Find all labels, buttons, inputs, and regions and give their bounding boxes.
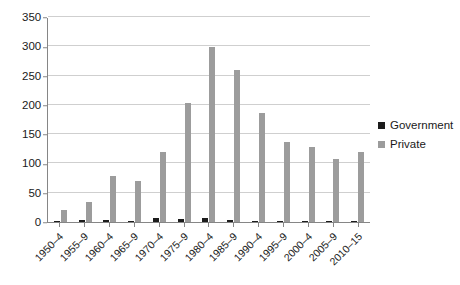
x-axis-labels: 1950–41955–91960–41965–91970–41975–91980… [47, 228, 370, 285]
bar-group [221, 18, 246, 222]
x-axis-tick-mark [358, 223, 359, 227]
bar-chart: 050100150200250300350 1950–41955–91960–4… [0, 0, 460, 285]
y-axis-tick-label: 150 [22, 129, 41, 141]
bar-government-1985-9 [227, 220, 233, 222]
x-axis-tick-mark [333, 223, 334, 227]
x-axis-tick-mark [84, 223, 85, 227]
bar-group [122, 18, 147, 222]
bar-group [296, 18, 321, 222]
bar-government-1955-9 [79, 220, 85, 222]
bar-private-1995-9 [284, 142, 290, 222]
bar-private-1960-4 [110, 176, 116, 222]
bar-group [147, 18, 172, 222]
bar-private-2010-15 [358, 152, 364, 222]
bar-private-1965-9 [135, 181, 141, 222]
bar-private-1985-9 [234, 70, 240, 222]
plot-area [47, 18, 370, 223]
y-axis-tick-label: 200 [22, 100, 41, 112]
bar-series-container [48, 18, 370, 222]
y-axis-tick-label: 300 [22, 42, 41, 54]
bar-group [48, 18, 73, 222]
y-axis-tick-label: 50 [28, 188, 41, 200]
bar-government-2010-15 [351, 221, 357, 222]
legend-item-private[interactable]: Private [378, 139, 453, 151]
legend-item-government[interactable]: Government [378, 120, 453, 132]
x-axis-tick-mark [109, 223, 110, 227]
x-axis-tick-mark [59, 223, 60, 227]
bar-government-1965-9 [128, 221, 134, 222]
bar-government-1960-4 [103, 220, 109, 222]
y-axis-tick: 150 [22, 129, 47, 141]
x-axis-tick-mark [233, 223, 234, 227]
y-axis-tick: 300 [22, 42, 47, 54]
government-swatch [378, 122, 385, 129]
bar-government-1970-4 [153, 218, 159, 222]
bar-group [197, 18, 222, 222]
x-axis-tick-mark [258, 223, 259, 227]
x-axis-tick-mark [208, 223, 209, 227]
bar-government-1990-4 [252, 221, 258, 222]
legend-item-label: Private [390, 139, 426, 151]
bar-private-1980-4 [209, 47, 215, 222]
bar-private-1950-4 [61, 210, 67, 222]
y-axis-tick: 200 [22, 100, 47, 112]
bar-government-1950-4 [54, 221, 60, 222]
bar-group [345, 18, 370, 222]
y-axis-tick-label: 0 [35, 217, 41, 229]
bar-government-2000-4 [302, 221, 308, 222]
bar-government-1975-9 [178, 219, 184, 222]
bar-private-1970-4 [160, 152, 166, 222]
bar-private-1975-9 [185, 103, 191, 222]
bar-group [98, 18, 123, 222]
y-axis-tick: 50 [28, 188, 47, 200]
x-axis-tick-mark [159, 223, 160, 227]
y-axis: 050100150200250300350 [0, 18, 47, 223]
y-axis-tick: 100 [22, 159, 47, 171]
y-axis-tick-label: 100 [22, 159, 41, 171]
bar-group [246, 18, 271, 222]
bar-private-2005-9 [333, 159, 339, 222]
private-swatch [378, 141, 385, 148]
x-axis-tick-mark [308, 223, 309, 227]
bar-government-1980-4 [202, 218, 208, 222]
bar-private-1990-4 [259, 113, 265, 222]
bar-government-1995-9 [277, 221, 283, 222]
y-axis-tick: 350 [22, 12, 47, 24]
bar-group [271, 18, 296, 222]
x-axis-tick-mark [283, 223, 284, 227]
y-axis-tick: 0 [35, 217, 47, 229]
bar-private-1955-9 [86, 202, 92, 223]
y-axis-tick-label: 250 [22, 71, 41, 83]
bar-government-2005-9 [326, 221, 332, 222]
y-axis-tick-label: 350 [22, 12, 41, 24]
legend-item-label: Government [390, 120, 453, 132]
gridline [48, 16, 370, 17]
y-axis-tick: 250 [22, 71, 47, 83]
bar-group [320, 18, 345, 222]
bar-group [172, 18, 197, 222]
bar-private-2000-4 [309, 147, 315, 222]
x-axis-tick-mark [134, 223, 135, 227]
bar-group [73, 18, 98, 222]
chart-legend: GovernmentPrivate [378, 120, 453, 150]
x-axis-tick-mark [184, 223, 185, 227]
